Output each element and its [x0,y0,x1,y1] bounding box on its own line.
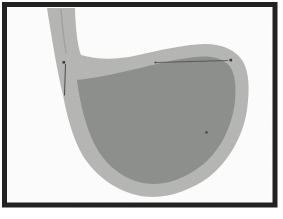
annotation-body-boundary-dot [205,131,208,134]
cardia-pointer-mark [63,61,66,64]
figure-canvas [0,0,283,219]
grain-texture-overlay [8,8,271,201]
fundus-pointer-mark [230,59,233,62]
stomach-diagram [0,0,283,219]
